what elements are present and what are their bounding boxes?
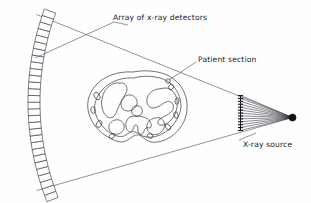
detector-cell[interactable] — [28, 115, 40, 122]
organ-lower-left — [109, 120, 124, 135]
organ-upper-mid — [121, 95, 137, 111]
label-detector-array: Array of x-ray detectors — [113, 13, 207, 22]
ct-scanner-diagram: Array of x-ray detectors Patient section… — [0, 0, 311, 203]
vessel-marker-9 — [167, 83, 174, 90]
leader-source — [239, 133, 256, 140]
vertebral-arch — [126, 116, 152, 134]
detector-cell[interactable] — [28, 82, 40, 89]
detector-cell[interactable] — [28, 89, 40, 96]
diagram-canvas: Array of x-ray detectors Patient section… — [0, 0, 311, 203]
detector-cell[interactable] — [28, 95, 40, 102]
body-outline — [88, 71, 187, 142]
fan-beam-upper-edge — [37, 15, 293, 118]
leader-detectors-stub — [114, 22, 128, 25]
leader-lines — [35, 22, 256, 140]
detector-cells-group — [28, 9, 58, 202]
fan-ray — [241, 118, 293, 128]
organ-lower-right — [147, 118, 165, 135]
x-ray-source-assembly[interactable] — [238, 95, 296, 131]
detector-cell[interactable] — [29, 122, 42, 130]
vessel-marker-2 — [90, 106, 95, 113]
fan-rays-group — [241, 96, 293, 131]
label-patient-section: Patient section — [198, 55, 256, 64]
x-ray-source-dot[interactable] — [289, 114, 296, 121]
label-x-ray-source: X-ray source — [243, 140, 292, 149]
detector-cell[interactable] — [28, 109, 40, 116]
fan-ray — [241, 98, 293, 117]
patient-section[interactable] — [88, 71, 187, 142]
detector-cell[interactable] — [28, 102, 40, 109]
spine-body — [132, 106, 143, 117]
fan-beam-lower-edge — [37, 118, 293, 191]
lung-left — [102, 83, 127, 118]
detector-array[interactable] — [28, 9, 58, 202]
vessel-marker-4 — [108, 133, 115, 140]
